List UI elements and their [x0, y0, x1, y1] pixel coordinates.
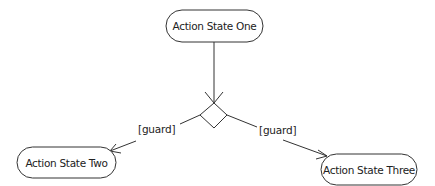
decision-diamond-icon: [200, 103, 227, 128]
action-state-three[interactable]: Action State Three: [321, 154, 417, 185]
action-state-one[interactable]: Action State One: [166, 10, 263, 42]
action-state-one-label: Action State One: [173, 20, 257, 32]
action-state-two[interactable]: Action State Two: [17, 147, 116, 178]
guard-label-left: [guard]: [138, 123, 175, 135]
action-state-two-label: Action State Two: [25, 157, 107, 169]
edge-one-to-decision: [205, 42, 223, 103]
activity-diagram: [guard] [guard] Action State One Action …: [0, 0, 435, 186]
edge-decision-to-three: [227, 115, 327, 159]
decision-node[interactable]: [200, 103, 227, 128]
action-state-three-label: Action State Three: [323, 164, 415, 176]
guard-label-right: [guard]: [259, 124, 296, 136]
